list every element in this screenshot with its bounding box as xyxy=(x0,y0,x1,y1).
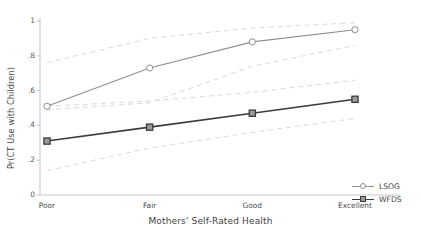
chart-container: Pr(CT Use with Children) 0.2.4.6.81 Poor… xyxy=(0,0,421,236)
series-line-wfds xyxy=(47,99,355,141)
data-point-lsog xyxy=(44,103,50,109)
y-tick-label: .8 xyxy=(15,51,35,60)
x-tick-label-fair: Fair xyxy=(115,201,185,210)
data-point-lsog xyxy=(249,39,255,45)
legend-marker-square-icon xyxy=(352,194,374,206)
y-tick-label: 0 xyxy=(15,190,35,199)
legend-label-lsog: LSOG xyxy=(379,182,400,191)
y-tick-label: .4 xyxy=(15,120,35,129)
legend-label-wfds: WFDS xyxy=(379,195,402,204)
data-point-lsog xyxy=(352,27,358,33)
confidence-band-wfds-lower xyxy=(47,118,355,170)
legend-item-wfds[interactable]: WFDS xyxy=(352,193,402,206)
y-tick-label: 1 xyxy=(15,16,35,25)
data-point-wfds xyxy=(44,138,50,144)
series-line-lsog xyxy=(47,30,355,107)
x-axis-title: Mothers' Self-Rated Health xyxy=(0,216,421,226)
data-point-wfds xyxy=(249,110,255,116)
data-point-lsog xyxy=(147,65,153,71)
legend-item-lsog[interactable]: LSOG xyxy=(352,180,402,193)
x-tick-label-poor: Poor xyxy=(12,201,82,210)
legend-marker-circle-icon xyxy=(352,181,374,193)
y-tick-label: .6 xyxy=(15,86,35,95)
chart-legend: LSOG WFDS xyxy=(352,180,402,206)
data-point-wfds xyxy=(352,96,358,102)
y-tick-label: .2 xyxy=(15,155,35,164)
data-point-wfds xyxy=(147,124,153,130)
x-tick-label-good: Good xyxy=(217,201,287,210)
confidence-band-lsog-upper xyxy=(47,23,355,63)
